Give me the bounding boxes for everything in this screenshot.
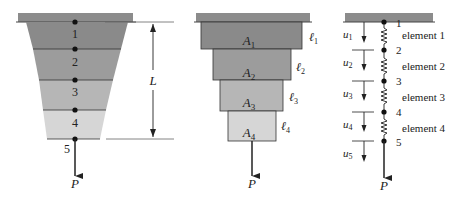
node-label-4: 4 <box>396 106 402 118</box>
length-dimension: L <box>148 24 156 137</box>
node-label-2: 2 <box>72 55 78 69</box>
node-label-1: 1 <box>396 17 402 29</box>
displacement-arrow-4 <box>352 112 374 132</box>
node-dot-2 <box>381 47 386 52</box>
length-label-1: ℓ1 <box>309 30 318 46</box>
load-label: P <box>379 178 388 193</box>
displacement-label-4: u4 <box>343 118 353 132</box>
displacement-arrow-5 <box>352 141 374 162</box>
node-dot-4 <box>381 109 386 114</box>
spring-element-3 <box>381 81 387 112</box>
node-dot-1 <box>381 19 386 24</box>
fixed-wall <box>196 13 310 22</box>
node-label-2: 2 <box>396 44 402 56</box>
load-label: P <box>247 176 256 191</box>
displacement-arrow-3 <box>352 81 374 101</box>
spring-element-2 <box>381 50 387 81</box>
node-dot-4 <box>72 107 77 112</box>
tapered-bar-figure: 1 2 3 4 5 P L <box>16 13 174 191</box>
element-label-1: element 1 <box>402 29 445 41</box>
node-dot-1 <box>72 19 77 24</box>
node-label-4: 4 <box>72 116 78 130</box>
element-label-4: element 4 <box>402 122 446 134</box>
diagram-canvas: 1 2 3 4 5 P L A1 A2 A3 A4 ℓ1 ℓ2 ℓ3 ℓ4 <box>0 0 465 204</box>
displacement-arrow-2 <box>352 50 374 71</box>
displacement-label-5: u5 <box>343 147 353 161</box>
fixed-wall <box>345 13 433 22</box>
node-label-3: 3 <box>72 85 78 99</box>
node-label-3: 3 <box>396 75 402 87</box>
length-label-2: ℓ2 <box>296 60 305 76</box>
displacement-label-2: u2 <box>343 56 353 70</box>
element-label-2: element 2 <box>402 60 445 72</box>
displacement-label-1: u1 <box>343 28 353 42</box>
displacement-label-3: u3 <box>343 87 353 101</box>
spring-model-figure: 1 2 3 4 5 element 1 element 2 element 3 … <box>343 13 446 193</box>
length-label-3: ℓ3 <box>289 90 298 106</box>
node-label-5: 5 <box>396 136 402 148</box>
spring-element-1 <box>381 22 387 50</box>
length-label: L <box>148 73 156 88</box>
length-label-4: ℓ4 <box>281 119 290 135</box>
stepped-bar-figure: A1 A2 A3 A4 ℓ1 ℓ2 ℓ3 ℓ4 P <box>194 13 318 191</box>
element-label-3: element 3 <box>402 91 446 103</box>
node-dot-2 <box>72 46 77 51</box>
displacement-arrow-1 <box>362 22 367 43</box>
node-label-1: 1 <box>72 27 78 41</box>
load-label: P <box>70 176 79 191</box>
spring-element-4 <box>381 112 387 141</box>
node-label-5: 5 <box>64 142 70 156</box>
node-dot-3 <box>72 77 77 82</box>
node-dot-3 <box>381 78 386 83</box>
